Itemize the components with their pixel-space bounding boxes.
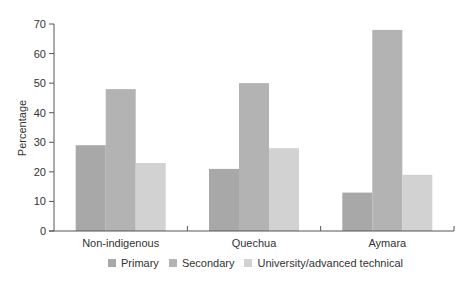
y-tick-label: 30 — [34, 136, 46, 148]
y-tick-label: 40 — [34, 107, 46, 119]
x-category-label: Aymara — [368, 237, 407, 249]
y-tick-label: 20 — [34, 166, 46, 178]
bar — [209, 169, 239, 231]
y-axis-ticks: 010203040506070 — [34, 18, 54, 237]
legend-item: Secondary — [169, 257, 235, 269]
bar — [402, 175, 432, 231]
bar — [372, 30, 402, 231]
bar — [76, 145, 106, 231]
y-tick-label: 50 — [34, 77, 46, 89]
legend-swatch-icon — [169, 259, 177, 267]
bar — [106, 89, 136, 231]
bar — [269, 148, 299, 231]
y-tick-label: 10 — [34, 195, 46, 207]
bar — [342, 193, 372, 231]
x-axis-categories: Non-indigenousQuechuaAymara — [82, 237, 407, 249]
bar — [239, 83, 269, 231]
legend-label: Secondary — [182, 257, 235, 269]
y-tick-label: 0 — [40, 225, 46, 237]
chart-legend: PrimarySecondaryUniversity/advanced tech… — [0, 255, 473, 271]
bars-group — [76, 30, 433, 231]
x-category-label: Non-indigenous — [82, 237, 160, 249]
legend-label: Primary — [121, 257, 159, 269]
legend-label: University/advanced technical — [257, 257, 403, 269]
legend-swatch-icon — [244, 259, 252, 267]
legend-item: University/advanced technical — [244, 257, 403, 269]
legend-swatch-icon — [108, 259, 116, 267]
bar — [136, 163, 166, 231]
y-tick-label: 60 — [34, 48, 46, 60]
y-tick-label: 70 — [34, 18, 46, 30]
x-category-label: Quechua — [232, 237, 278, 249]
y-axis-title: Percentage — [16, 100, 28, 156]
legend-item: Primary — [108, 257, 159, 269]
bar-chart: 010203040506070 Non-indigenousQuechuaAym… — [0, 0, 473, 284]
